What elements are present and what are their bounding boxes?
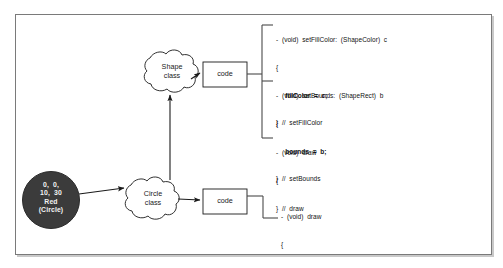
instance-line3: Red — [44, 198, 57, 205]
code-line: { — [276, 63, 387, 72]
code-line: { — [276, 119, 383, 128]
circle-class-line2: class — [145, 198, 161, 207]
code-line: { — [281, 240, 463, 249]
circle-instance-label: 0, 0,10, 30Red(Circle) — [23, 181, 79, 215]
shape-class-line2: class — [164, 71, 180, 80]
diagram-root: Shapeclass Circleclass code code 0, 0,10… — [0, 0, 503, 268]
shape-code-box-label: code — [203, 70, 247, 78]
code-line: - (void) setBounds: (ShapeRect) b — [276, 91, 383, 100]
circle-code-box-label: code — [203, 197, 247, 205]
shape-code-bracket — [247, 25, 273, 138]
shape-class-label: Shapeclass — [150, 63, 194, 81]
code-block-circle-draw: - (void) draw { NSLog (@"drawing a circl… — [281, 194, 463, 268]
code-line: - (void) draw — [281, 212, 463, 221]
arrow-instance-to-circle — [79, 188, 124, 194]
circle-class-label: Circleclass — [131, 190, 175, 208]
code-line: - (void) setFillColor: (ShapeColor) c — [276, 35, 387, 44]
instance-line2: 10, 30 — [40, 189, 62, 196]
code-line: { — [276, 176, 316, 185]
shape-class-line1: Shape — [162, 62, 183, 71]
arrow-circle-to-code — [178, 199, 200, 200]
circle-code-connector — [247, 196, 278, 218]
instance-line1: 0, 0, — [43, 181, 59, 188]
circle-class-line1: Circle — [144, 189, 162, 198]
instance-line4: (Circle) — [39, 206, 64, 213]
code-line: - (void) draw — [276, 148, 316, 157]
